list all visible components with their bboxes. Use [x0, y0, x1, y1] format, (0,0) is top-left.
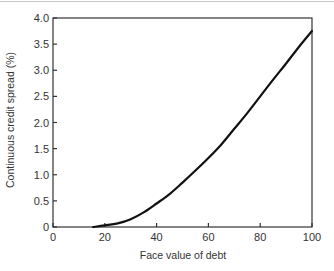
- y-tick-label: 0.5: [34, 195, 49, 207]
- y-tick-label: 1.0: [34, 169, 49, 181]
- y-tick-label: 2.0: [34, 117, 49, 129]
- y-tick-label: 2.5: [34, 90, 49, 102]
- y-tick-label: 1.5: [34, 143, 49, 155]
- y-tick-label: 0: [43, 221, 49, 233]
- y-axis-label: Continuous credit spread (%): [4, 52, 16, 188]
- x-tick-label: 60: [202, 231, 214, 243]
- y-tick-label: 4.0: [34, 12, 49, 24]
- credit-spread-chart: 00.51.01.52.02.53.03.54.0 020406080100 F…: [0, 0, 334, 271]
- plot-border: [53, 18, 312, 227]
- credit-spread-line: [93, 31, 312, 227]
- x-tick-label: 0: [50, 231, 56, 243]
- x-tick-label: 80: [254, 231, 266, 243]
- x-tick-label: 40: [150, 231, 162, 243]
- x-axis-label: Face value of debt: [140, 249, 226, 261]
- x-axis-ticks: 020406080100: [50, 223, 321, 243]
- y-tick-label: 3.0: [34, 64, 49, 76]
- x-tick-label: 20: [99, 231, 111, 243]
- x-tick-label: 100: [303, 231, 321, 243]
- y-tick-label: 3.5: [34, 38, 49, 50]
- plot-frame: [53, 18, 312, 227]
